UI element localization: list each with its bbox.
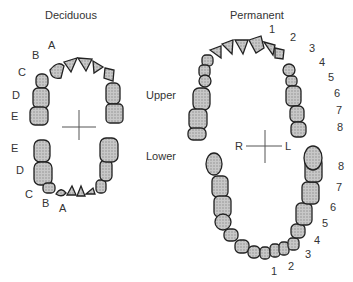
- dec-lower-E: E: [11, 143, 18, 154]
- permanent-title: Permanent: [230, 10, 284, 21]
- perm-lower-1: 1: [271, 266, 277, 277]
- dec-lower-D: D: [16, 165, 24, 176]
- right-label: R: [235, 141, 243, 152]
- dec-upper-A: A: [48, 40, 55, 51]
- dec-upper-D: D: [12, 90, 20, 101]
- upper-label: Upper: [146, 90, 176, 101]
- lower-label: Lower: [146, 151, 176, 162]
- perm-upper-6: 6: [334, 88, 340, 99]
- dec-lower-C: C: [25, 189, 33, 200]
- perm-upper-7: 7: [336, 105, 342, 116]
- perm-lower-6: 6: [330, 202, 336, 213]
- dec-upper-C: C: [18, 67, 26, 78]
- perm-upper-5: 5: [328, 72, 334, 83]
- perm-lower-8: 8: [338, 161, 344, 172]
- deciduous-lower-arch: [34, 138, 118, 196]
- perm-lower-4: 4: [314, 235, 320, 246]
- perm-lower-2: 2: [288, 261, 294, 272]
- perm-lower-3: 3: [305, 249, 311, 260]
- perm-upper-1: 1: [269, 24, 275, 35]
- perm-upper-8: 8: [337, 122, 343, 133]
- permanent-lower-arch: [206, 146, 322, 259]
- deciduous-title: Deciduous: [45, 10, 97, 21]
- dec-lower-A: A: [59, 203, 66, 214]
- permanent-upper-arch: [188, 36, 306, 140]
- perm-upper-3: 3: [309, 43, 315, 54]
- perm-lower-7: 7: [336, 182, 342, 193]
- perm-upper-2: 2: [290, 32, 296, 43]
- dec-lower-B: B: [42, 198, 49, 209]
- dec-upper-B: B: [32, 50, 39, 61]
- deciduous-upper-arch: [30, 58, 123, 125]
- perm-upper-4: 4: [319, 57, 325, 68]
- left-label: L: [285, 141, 291, 152]
- perm-lower-5: 5: [322, 218, 328, 229]
- dec-upper-E: E: [11, 111, 18, 122]
